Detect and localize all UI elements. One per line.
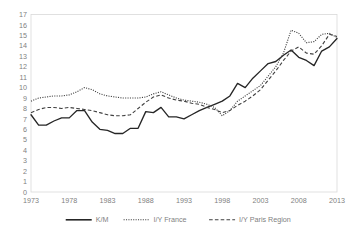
x-axis-tick-labels: 197319781983198819931998200320082013 — [23, 196, 345, 205]
series-line-i-y-paris-region — [31, 34, 337, 115]
y-axis-tick-label: 10 — [19, 83, 27, 92]
legend-label: K/M — [96, 215, 109, 224]
y-axis-tick-label: 5 — [23, 135, 27, 144]
plot-area-frame — [31, 15, 337, 193]
y-axis-tick-label: 6 — [23, 125, 27, 134]
data-series-group — [31, 30, 337, 133]
y-axis-tick-label: 16 — [19, 21, 27, 30]
chart-canvas: 01234567891011121314151617 1973197819831… — [0, 0, 352, 239]
series-line-i-y-france — [31, 30, 337, 116]
x-axis-tick-label: 2003 — [253, 196, 269, 205]
chart-legend: K/MI/Y FranceI/Y Paris Region — [66, 215, 291, 224]
plot-frame-group — [31, 15, 337, 193]
y-axis-tick-label: 17 — [19, 10, 27, 19]
x-axis-tick-label: 2013 — [329, 196, 345, 205]
x-axis-tick-label: 1973 — [23, 196, 39, 205]
y-axis-tick-label: 2 — [23, 167, 27, 176]
y-axis-tick-label: 3 — [23, 156, 27, 165]
legend-label: I/Y Paris Region — [239, 215, 291, 224]
y-axis-tick-label: 14 — [19, 41, 27, 50]
x-axis-tick-label: 1998 — [214, 196, 230, 205]
x-axis-tick-label: 1978 — [61, 196, 77, 205]
series-line-k-m — [31, 39, 337, 134]
y-axis-tick-label: 12 — [19, 62, 27, 71]
y-axis-tick-label: 4 — [23, 146, 27, 155]
y-axis-tick-label: 15 — [19, 31, 27, 40]
x-axis-tick-label: 1988 — [138, 196, 154, 205]
y-axis-tick-label: 8 — [23, 104, 27, 113]
y-axis-tick-label: 1 — [23, 177, 27, 186]
x-axis-tick-label: 1993 — [176, 196, 192, 205]
x-axis-tick-label: 1983 — [100, 196, 116, 205]
legend-label: I/Y France — [154, 215, 187, 224]
y-axis-tick-labels: 01234567891011121314151617 — [19, 10, 27, 197]
y-axis-tick-label: 9 — [23, 94, 27, 103]
y-axis-tick-label: 11 — [20, 73, 27, 82]
y-axis-tick-label: 7 — [23, 115, 27, 124]
x-axis-tick-label: 2008 — [291, 196, 307, 205]
line-chart: 01234567891011121314151617 1973197819831… — [0, 0, 352, 239]
y-axis-tick-label: 13 — [19, 52, 27, 61]
